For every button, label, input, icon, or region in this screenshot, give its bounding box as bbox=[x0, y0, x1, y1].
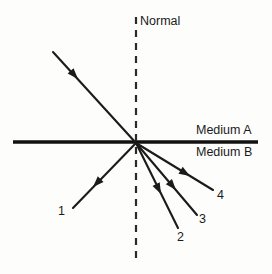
ray-1-label: 1 bbox=[58, 205, 65, 218]
refraction-diagram: Normal Medium A Medium B 1 2 3 4 bbox=[0, 0, 272, 274]
ray-2-arrowhead bbox=[153, 182, 165, 195]
normal-label: Normal bbox=[140, 15, 180, 28]
incident-ray-line bbox=[53, 52, 136, 143]
medium-a-label: Medium A bbox=[196, 124, 252, 137]
diagram-canvas bbox=[0, 0, 272, 274]
ray-1 bbox=[73, 143, 136, 208]
ray-2-label: 2 bbox=[177, 231, 184, 244]
ray-4-arrowhead bbox=[179, 167, 193, 180]
incident-ray bbox=[53, 52, 136, 143]
ray-1-line bbox=[73, 143, 136, 208]
ray-3-label: 3 bbox=[199, 213, 206, 226]
medium-b-label: Medium B bbox=[196, 146, 252, 159]
ray-4-label: 4 bbox=[217, 189, 224, 202]
